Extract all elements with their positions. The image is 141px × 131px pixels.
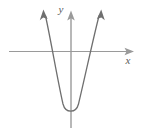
- parabola-right-arrowhead: [97, 10, 105, 21]
- y-axis-label: y: [58, 3, 64, 15]
- x-axis-label: x: [125, 54, 131, 66]
- parabola-curve: [46, 16, 100, 111]
- parabola-left-arrowhead: [40, 10, 48, 21]
- graph-figure: y x: [0, 0, 141, 131]
- parabola-graph-canvas: y x: [0, 0, 141, 131]
